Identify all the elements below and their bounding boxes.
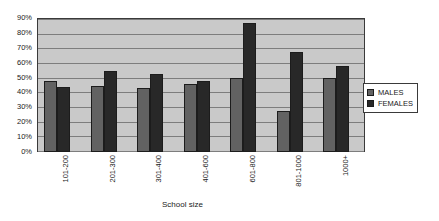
bar-males-601-800 [230,78,243,152]
legend-label: MALES [378,88,403,97]
bar-males-201-300 [91,86,104,153]
y-axis-tick-label: 40% [17,88,32,96]
x-axis-tick: 301-400 [131,153,178,198]
y-axis-tick-label: 90% [17,14,32,22]
y-axis-tick-label: 50% [17,74,32,82]
x-axis-tick-label: 101-200 [61,155,70,183]
bar-group [317,19,364,152]
bar-females-801-1000 [290,52,303,152]
legend-item-males: MALES [367,87,413,98]
x-axis-tick-label: 801-1000 [294,155,303,187]
x-axis-tick-label: 201-300 [108,155,117,183]
bar-males-101-200 [44,81,57,152]
x-axis-tick-label: 601-800 [248,155,257,183]
y-axis: 0%10%20%30%40%50%60%70%80%90% [0,18,35,152]
bar-group [178,19,225,152]
x-axis-tick-label: 301-400 [154,155,163,183]
bar-males-801-1000 [277,111,290,152]
legend-item-females: FEMALES [367,98,413,109]
legend-swatch-icon [367,100,374,107]
y-axis-tick-label: 30% [17,103,32,111]
bar-females-101-200 [57,87,70,152]
y-axis-tick-label: 0% [21,148,32,156]
bars-layer [38,19,364,152]
bar-chart: 0%10%20%30%40%50%60%70%80%90% 101-200201… [0,0,439,221]
bar-females-1000+ [336,66,349,152]
x-axis: 101-200201-300301-400401-600601-800801-1… [38,153,364,198]
bar-group [131,19,178,152]
legend-swatch-icon [367,89,374,96]
bar-females-201-300 [104,71,117,152]
x-axis-tick: 1000+ [317,153,364,198]
bar-females-301-400 [150,74,163,152]
bar-females-401-600 [197,81,210,152]
x-axis-tick: 101-200 [38,153,85,198]
x-axis-title: School size [0,200,365,209]
x-axis-tick: 601-800 [224,153,271,198]
x-axis-tick-label: 401-600 [201,155,210,183]
x-axis-tick-label: 1000+ [341,155,350,176]
legend-label: FEMALES [378,99,413,108]
y-axis-tick-label: 10% [17,133,32,141]
bar-males-401-600 [184,84,197,152]
bar-group [271,19,318,152]
x-axis-tick: 401-600 [178,153,225,198]
bar-group [38,19,85,152]
y-axis-tick-label: 20% [17,118,32,126]
bar-group [85,19,132,152]
bar-males-1000+ [323,78,336,152]
y-axis-tick-label: 80% [17,29,32,37]
x-axis-tick: 201-300 [85,153,132,198]
bar-males-301-400 [137,88,150,152]
bar-females-601-800 [243,23,256,152]
x-axis-tick: 801-1000 [271,153,318,198]
legend: MALESFEMALES [363,83,418,113]
y-axis-tick-label: 60% [17,59,32,67]
bar-group [224,19,271,152]
y-axis-tick-label: 70% [17,44,32,52]
